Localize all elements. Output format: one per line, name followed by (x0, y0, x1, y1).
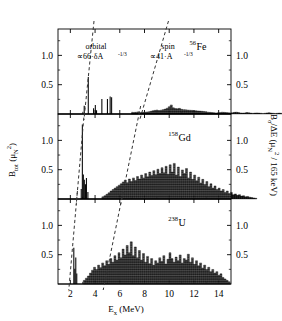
y-tick-label-right: 0.5 (236, 250, 248, 260)
annotation-orbital-exponent: -1/3 (118, 51, 127, 57)
x-tick-label: 14 (214, 289, 224, 299)
ylabel-left-close: ) (7, 143, 17, 146)
annotation-orbital-formula: ∝66·δA (77, 52, 103, 61)
guide-orbital (69, 21, 94, 290)
x-tick-label: 8 (142, 289, 147, 299)
figure-root: 0.50.51.01.056Fe0.50.51.01.0158Gd0.50.51… (0, 0, 282, 321)
x-axis-title: Ex (MeV) (108, 304, 144, 316)
panel-238U (58, 199, 231, 284)
isotope-symbol: Fe (197, 41, 208, 52)
y-tick-label-left: 1.0 (41, 51, 53, 61)
x-tick-label: 4 (93, 289, 98, 299)
annotation-orbital-title: orbital (86, 42, 108, 51)
y-axis-title-left-text: Btot (μN2) (5, 143, 19, 177)
isotope-symbol: Gd (179, 132, 191, 143)
annotation-spin-title: spin (161, 42, 174, 51)
x-tick-label: 12 (189, 289, 199, 299)
y-tick-label-right: 1.0 (236, 136, 248, 146)
y-tick-label-right: 0.5 (236, 80, 248, 90)
ylabel-left-open: (μ (7, 154, 17, 164)
ylabel-right-unit-sub: N (267, 147, 274, 152)
ylabel-left-mu-sub: N (12, 149, 19, 154)
y-axis-title-right: Bσ/ΔE (μN2 / 165 keV) (267, 114, 281, 196)
ylabel-right-rest: / 165 keV) (269, 155, 279, 196)
annotation-spin-exponent: -1/3 (184, 51, 193, 57)
y-tick-label-right: 1.0 (236, 221, 248, 231)
y-tick-label-left: 0.5 (41, 165, 53, 175)
x-tick-label: 2 (68, 289, 73, 299)
spectra-figure: 0.50.51.01.056Fe0.50.51.01.0158Gd0.50.51… (0, 0, 282, 321)
guide-segment (140, 21, 169, 120)
x-axis-title-text: Ex (MeV) (108, 304, 144, 316)
y-tick-label-left: 1.0 (41, 221, 53, 231)
histogram (132, 105, 282, 114)
isotope-symbol: U (179, 217, 187, 228)
isotope-mass-number: 238 (168, 215, 178, 222)
x-tick-label: 10 (164, 289, 174, 299)
y-axis-title-right-text: Bσ/ΔE (μN2 / 165 keV) (267, 114, 281, 196)
ylabel-right-div: /ΔE (μ (269, 123, 279, 147)
isotope-mass-number: 158 (168, 130, 178, 137)
y-tick-label-left: 0.5 (41, 250, 53, 260)
y-axis-title-left: Btot (μN2) (5, 143, 19, 177)
x-tick-label: 6 (117, 289, 122, 299)
y-tick-label-left: 0.5 (41, 80, 53, 90)
x-axis-title-unit: (MeV) (117, 304, 144, 314)
y-tick-label-right: 0.5 (236, 165, 248, 175)
guide-segment (84, 21, 94, 120)
panel-158Gd (58, 114, 257, 199)
y-tick-label-right: 1.0 (236, 51, 248, 61)
annotation-spin-formula: ∝41·A (150, 52, 173, 61)
y-tick-label-left: 1.0 (41, 136, 53, 146)
